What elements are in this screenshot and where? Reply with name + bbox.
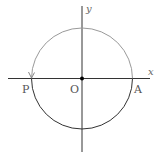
y-axis-label: y: [85, 3, 92, 14]
origin-dot: [80, 77, 84, 81]
x-axis-label: x: [148, 66, 154, 77]
point-a-label: A: [133, 83, 143, 96]
origin-label: O: [70, 83, 79, 96]
point-p-label: P: [22, 83, 30, 96]
unit-circle-diagram: x y O P A: [0, 0, 163, 154]
